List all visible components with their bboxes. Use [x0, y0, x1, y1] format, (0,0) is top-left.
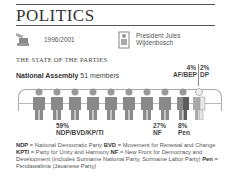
legend: NDP = National Democratic Party BVD = Mo… — [16, 142, 221, 170]
party-pct-nf: 27% — [153, 122, 166, 129]
person-icon — [140, 88, 154, 120]
divider — [198, 64, 199, 86]
section-title: THE STATE OF THE PARTIES — [16, 56, 108, 63]
page-title: POLITICS — [16, 6, 95, 26]
legend-abbr: NDP — [16, 142, 28, 148]
person-icon — [50, 88, 64, 120]
president-icon — [118, 31, 130, 49]
legend-abbr: Pen — [202, 156, 213, 162]
president-name-line2: Wijdenbosch — [136, 39, 173, 47]
assembly-label: National Assembly 51 members — [16, 72, 119, 79]
party-pct-ndp: 59% — [56, 122, 69, 129]
party-name-dp: DP — [200, 71, 212, 78]
party-name-ndp: NDP/BVD/KP/TI — [56, 129, 104, 136]
assembly-members: 51 members — [80, 72, 119, 79]
term-text: 1996/2001 — [44, 36, 75, 44]
legend-text: = Party for Unity and Harmony — [29, 149, 110, 155]
party-name-nf: NF — [153, 129, 162, 136]
person-icon — [176, 88, 190, 120]
party-pct-dp: 2% — [200, 64, 212, 71]
person-icon — [32, 88, 46, 120]
title-rule — [16, 25, 215, 26]
party-name-af-bep: AF/BEP — [173, 71, 196, 78]
person-icon — [192, 88, 206, 120]
assembly-name: National Assembly — [16, 72, 78, 79]
legend-abbr: KPTI — [16, 149, 29, 155]
person-icon — [104, 88, 118, 120]
party-pct-af-bep: 4% — [176, 64, 196, 71]
legend-abbr: BVD — [104, 142, 116, 148]
person-icon — [122, 88, 136, 120]
person-icon — [68, 88, 82, 120]
person-icon — [158, 88, 172, 120]
parliament-icon — [16, 31, 30, 47]
legend-text: = National Democratic Party — [28, 142, 104, 148]
top-rule — [16, 4, 215, 5]
party-pct-pen: 8% — [178, 122, 187, 129]
party-name-pen: Pen — [178, 129, 190, 136]
legend-text: = Movement for Renewal and Change — [116, 142, 215, 148]
person-icon — [86, 88, 100, 120]
